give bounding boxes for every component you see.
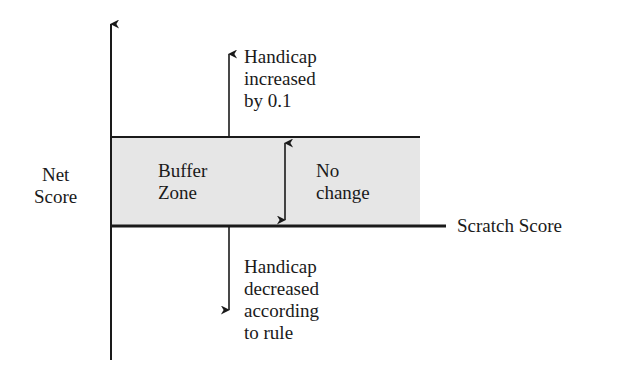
handicap-increased-label: Handicap increased by 0.1 bbox=[244, 46, 317, 112]
scratch-score-label: Scratch Score bbox=[457, 215, 562, 237]
buffer-zone-label: Buffer Zone bbox=[158, 160, 207, 204]
y-axis-label: Net Score bbox=[34, 164, 77, 208]
handicap-decreased-label: Handicap decreased according to rule bbox=[244, 256, 319, 344]
no-change-label: No change bbox=[316, 160, 370, 204]
